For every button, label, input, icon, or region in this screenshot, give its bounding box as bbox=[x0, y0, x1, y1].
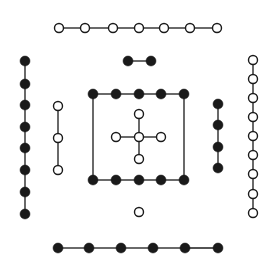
filled-dot-icon bbox=[123, 56, 133, 66]
open-dot-icon bbox=[112, 133, 121, 142]
open-dot-icon bbox=[160, 24, 169, 33]
open-dot-icon bbox=[249, 56, 258, 65]
filled-dot-icon bbox=[156, 175, 166, 185]
open-dot-icon bbox=[135, 24, 144, 33]
open-dot-icon bbox=[54, 134, 63, 143]
filled-dot-icon bbox=[180, 243, 190, 253]
filled-dot-icon bbox=[20, 79, 30, 89]
filled-dot-icon bbox=[88, 175, 98, 185]
open-dot-icon bbox=[109, 24, 118, 33]
open-dot-icon bbox=[54, 102, 63, 111]
open-dot-icon bbox=[135, 110, 144, 119]
open-dot-icon bbox=[81, 24, 90, 33]
open-dot-icon bbox=[186, 24, 195, 33]
filled-dot-icon bbox=[111, 175, 121, 185]
open-dot-icon bbox=[55, 24, 64, 33]
right-column-9-open bbox=[249, 56, 258, 218]
open-dot-icon bbox=[249, 94, 258, 103]
open-dot-icon bbox=[54, 166, 63, 175]
open-dot-icon bbox=[249, 75, 258, 84]
filled-dot-icon bbox=[156, 89, 166, 99]
filled-dot-icon bbox=[213, 99, 223, 109]
filled-dot-icon bbox=[111, 89, 121, 99]
filled-dot-icon bbox=[213, 163, 223, 173]
filled-dot-icon bbox=[134, 89, 144, 99]
lo-shu-diagram bbox=[0, 0, 278, 275]
bottom-center-1-open bbox=[135, 208, 144, 217]
open-dot-icon bbox=[249, 170, 258, 179]
open-dot-icon bbox=[135, 208, 144, 217]
filled-dot-icon bbox=[20, 187, 30, 197]
open-dot-icon bbox=[249, 132, 258, 141]
filled-dot-icon bbox=[20, 209, 30, 219]
open-dot-icon bbox=[135, 155, 144, 164]
open-dot-icon bbox=[157, 133, 166, 142]
filled-dot-icon bbox=[20, 165, 30, 175]
filled-dot-icon bbox=[88, 89, 98, 99]
open-dot-icon bbox=[135, 133, 144, 142]
filled-dot-icon bbox=[53, 243, 63, 253]
filled-dot-icon bbox=[116, 243, 126, 253]
filled-dot-icon bbox=[213, 142, 223, 152]
open-dot-icon bbox=[249, 113, 258, 122]
filled-dot-icon bbox=[84, 243, 94, 253]
open-dot-icon bbox=[249, 209, 258, 218]
filled-dot-icon bbox=[213, 120, 223, 130]
filled-dot-icon bbox=[213, 243, 223, 253]
filled-dot-icon bbox=[20, 100, 30, 110]
open-dot-icon bbox=[249, 151, 258, 160]
filled-dot-icon bbox=[20, 143, 30, 153]
filled-dot-icon bbox=[179, 89, 189, 99]
center-cross-5-open bbox=[112, 110, 166, 164]
open-dot-icon bbox=[213, 24, 222, 33]
filled-dot-icon bbox=[20, 122, 30, 132]
open-dot-icon bbox=[249, 190, 258, 199]
dot-groups bbox=[20, 24, 258, 254]
filled-dot-icon bbox=[146, 56, 156, 66]
filled-dot-icon bbox=[179, 175, 189, 185]
filled-dot-icon bbox=[148, 243, 158, 253]
filled-dot-icon bbox=[134, 175, 144, 185]
filled-dot-icon bbox=[20, 56, 30, 66]
